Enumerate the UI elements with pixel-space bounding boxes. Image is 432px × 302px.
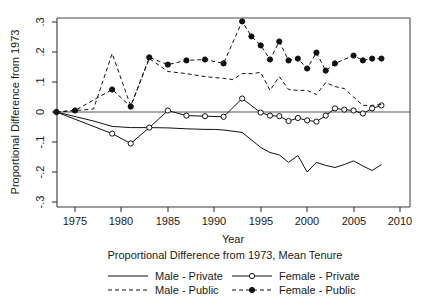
- y-tick-label: 0: [34, 109, 46, 115]
- data-point-marker: [332, 106, 337, 111]
- data-point-marker: [370, 56, 375, 61]
- x-tick-label: 1985: [156, 215, 180, 227]
- x-tick-label: 1980: [109, 215, 133, 227]
- legend-item-female-private[interactable]: Female - Private: [232, 270, 360, 282]
- data-point-marker: [360, 111, 365, 116]
- data-point-marker: [379, 56, 384, 61]
- x-tick-label: 1995: [249, 215, 273, 227]
- data-point-marker: [323, 68, 328, 73]
- data-point-marker: [277, 39, 282, 44]
- legend-item-female-public[interactable]: Female - Public: [232, 284, 356, 296]
- data-point-marker: [258, 110, 263, 115]
- legend-filled-circle-icon: [249, 287, 254, 292]
- series-path: [56, 21, 381, 112]
- y-tick-label: .1: [34, 77, 46, 86]
- y-tick-label: .3: [34, 17, 46, 26]
- legend-label: Male - Public: [155, 284, 219, 296]
- data-point-marker: [258, 43, 263, 48]
- y-tick-label: -.2: [34, 166, 46, 179]
- y-tick-label: -.3: [34, 196, 46, 209]
- data-point-marker: [351, 53, 356, 58]
- data-point-marker: [314, 119, 319, 124]
- legend-item-male-private[interactable]: Male - Private: [108, 270, 223, 282]
- series-path: [56, 112, 381, 172]
- x-axis-label: Year: [222, 233, 245, 245]
- data-point-marker: [295, 56, 300, 61]
- data-point-marker: [128, 141, 133, 146]
- data-point-marker: [165, 108, 170, 113]
- data-point-marker: [332, 61, 337, 66]
- data-point-marker: [351, 108, 356, 113]
- data-point-marker: [370, 106, 375, 111]
- series-path: [56, 99, 381, 144]
- data-point-marker: [295, 115, 300, 120]
- x-tick-label: 1990: [202, 215, 226, 227]
- data-point-marker: [147, 125, 152, 130]
- data-point-marker: [128, 104, 133, 109]
- series-male-private: [56, 112, 381, 172]
- legend-label: Male - Private: [155, 270, 223, 282]
- data-point-marker: [286, 58, 291, 63]
- x-tick-label: 2005: [342, 215, 366, 227]
- y-tick-label: .2: [34, 47, 46, 56]
- data-point-marker: [147, 55, 152, 60]
- data-point-marker: [267, 113, 272, 118]
- data-point-marker: [314, 50, 319, 55]
- data-point-marker: [240, 96, 245, 101]
- data-point-marker: [305, 66, 310, 71]
- data-point-marker: [202, 114, 207, 119]
- series-female-public: [54, 19, 384, 115]
- y-axis-label: Proportional Difference from 1973: [9, 30, 21, 195]
- data-point-marker: [286, 118, 291, 123]
- data-point-marker: [110, 131, 115, 136]
- data-point-marker: [184, 58, 189, 63]
- data-point-marker: [110, 87, 115, 92]
- series-layer: [54, 19, 384, 172]
- x-tick-label: 1975: [63, 215, 87, 227]
- legend-label: Female - Public: [279, 284, 356, 296]
- series-female-private: [54, 96, 384, 146]
- chart-caption: Proportional Difference from 1973, Mean …: [107, 249, 342, 261]
- data-point-marker: [342, 107, 347, 112]
- data-point-marker: [360, 58, 365, 63]
- chart-page: Proportional Difference from 1973 .3 .2 …: [0, 0, 432, 302]
- data-point-marker: [72, 108, 77, 113]
- x-axis-ticks: 1975 1980 1985 1990 1995 2000 2005 2010: [63, 207, 412, 227]
- data-point-marker: [202, 57, 207, 62]
- data-point-marker: [305, 118, 310, 123]
- data-point-marker: [165, 62, 170, 67]
- data-point-marker: [249, 34, 254, 39]
- legend-label: Female - Private: [279, 270, 360, 282]
- data-point-marker: [240, 19, 245, 24]
- data-point-marker: [221, 114, 226, 119]
- x-tick-label: 2010: [388, 215, 412, 227]
- data-point-marker: [184, 113, 189, 118]
- legend-item-male-public[interactable]: Male - Public: [108, 284, 219, 296]
- y-tick-label: -.1: [34, 136, 46, 149]
- data-point-marker: [221, 61, 226, 66]
- data-point-marker: [379, 103, 384, 108]
- data-point-marker: [54, 109, 59, 114]
- data-point-marker: [267, 57, 272, 62]
- proportional-difference-line-chart: Proportional Difference from 1973 .3 .2 …: [0, 0, 432, 302]
- chart-legend: Male - Private Female - Private Male - P…: [108, 270, 360, 296]
- data-point-marker: [277, 114, 282, 119]
- legend-open-circle-icon: [249, 273, 254, 278]
- data-point-marker: [323, 113, 328, 118]
- x-tick-label: 2000: [295, 215, 319, 227]
